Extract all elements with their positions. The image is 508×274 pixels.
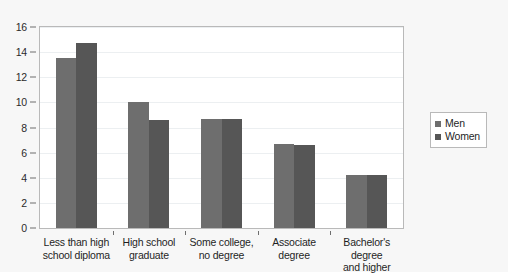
- bar-group: [128, 27, 169, 228]
- bar-women[interactable]: [76, 43, 97, 228]
- y-tick-mark: [30, 52, 36, 53]
- x-tick-label-line: Some college,: [190, 236, 254, 248]
- bar-men[interactable]: [346, 175, 367, 228]
- y-tick-mark: [30, 102, 36, 103]
- bar-men[interactable]: [201, 119, 222, 228]
- x-axis: Less than highschool diplomaHigh schoolg…: [40, 231, 403, 272]
- chart-legend: Men Women: [430, 112, 487, 148]
- y-tick-mark: [30, 77, 36, 78]
- y-tick-label: 6: [21, 147, 27, 158]
- y-tick-mark: [30, 127, 36, 128]
- y-tick-mark: [30, 27, 36, 28]
- y-tick-label: 8: [21, 122, 27, 133]
- y-tick-mark: [30, 152, 36, 153]
- x-tick-label-line: degree: [278, 249, 310, 261]
- y-tick-label: 4: [21, 173, 27, 184]
- x-tick-label-line: Less than high: [44, 236, 110, 248]
- x-tick-mark: [185, 231, 186, 235]
- y-tick-label: 10: [16, 97, 27, 108]
- legend-item-men[interactable]: Men: [435, 117, 480, 130]
- bars-layer: [40, 27, 403, 228]
- bar-women[interactable]: [294, 145, 315, 228]
- y-tick-mark: [30, 202, 36, 203]
- x-tick-label-line: and higher: [343, 261, 391, 273]
- y-tick-label: 16: [16, 22, 27, 33]
- bar-group: [56, 27, 97, 228]
- x-tick-label: Bachelor's degreeand higher: [326, 236, 407, 274]
- x-tick-label-line: school diploma: [43, 249, 110, 261]
- x-tick-mark: [258, 231, 259, 235]
- x-tick-label: Associatedegree: [254, 236, 335, 261]
- legend-label-women: Women: [445, 131, 480, 142]
- bar-women[interactable]: [149, 120, 170, 228]
- bar-men[interactable]: [274, 144, 295, 228]
- x-tick-label-line: Bachelor's degree: [343, 236, 390, 261]
- legend-swatch-men: [435, 121, 441, 127]
- bar-men[interactable]: [128, 102, 149, 228]
- x-tick-label: Some college,no degree: [181, 236, 262, 261]
- x-tick-mark: [330, 231, 331, 235]
- bar-group: [274, 27, 315, 228]
- y-tick-label: 2: [21, 198, 27, 209]
- y-tick-label: 0: [21, 223, 27, 234]
- legend-swatch-women: [435, 134, 441, 140]
- y-tick-mark: [30, 228, 36, 229]
- y-tick-label: 12: [16, 72, 27, 83]
- y-tick-mark: [30, 177, 36, 178]
- bar-group: [201, 27, 242, 228]
- x-tick-mark: [113, 231, 114, 235]
- x-tick-label-line: no degree: [199, 249, 245, 261]
- x-tick-label: High schoolgraduate: [109, 236, 190, 261]
- bar-women[interactable]: [367, 175, 388, 228]
- y-axis: 0246810121416: [0, 0, 39, 272]
- x-tick-label-line: High school: [123, 236, 176, 248]
- y-tick-label: 14: [16, 47, 27, 58]
- x-tick-label-line: graduate: [129, 249, 169, 261]
- bar-group: [346, 27, 387, 228]
- bar-women[interactable]: [222, 119, 243, 228]
- x-tick-label: Less than highschool diploma: [36, 236, 117, 261]
- bar-men[interactable]: [56, 58, 77, 228]
- x-tick-label-line: Associate: [272, 236, 316, 248]
- legend-label-men: Men: [445, 118, 465, 129]
- legend-item-women[interactable]: Women: [435, 130, 480, 143]
